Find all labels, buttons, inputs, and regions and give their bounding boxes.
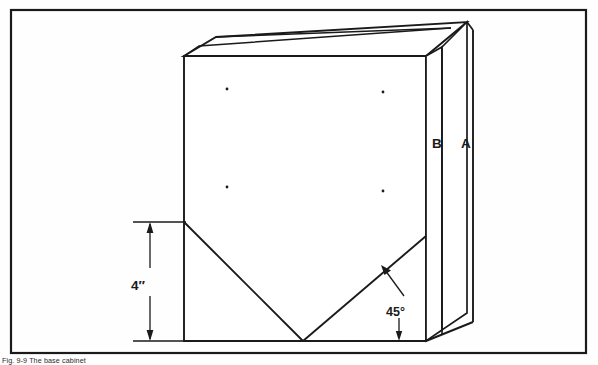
height-dimension-label: 4″: [131, 278, 146, 293]
angle-label: 45°: [386, 305, 405, 319]
panel-b-label: B: [432, 136, 442, 151]
panel-a-face: [442, 22, 467, 330]
fastener-dot: [382, 91, 385, 94]
panel-b-face: [426, 47, 442, 341]
top-surface: [184, 22, 467, 56]
figure-caption: Fig. 9-9 The base cabinet: [2, 356, 86, 365]
cabinet-isometric-drawing: B A 45° 4″: [0, 0, 598, 365]
front-face-outline: [184, 56, 426, 341]
dimension-arrow-down: [147, 330, 154, 341]
dimension-arrow-up: [147, 222, 154, 233]
fastener-dot: [226, 88, 229, 91]
panel-a-label: A: [461, 136, 471, 151]
panel-a-top-edge: [467, 22, 473, 30]
fastener-dot: [382, 190, 385, 193]
figure-canvas: B A 45° 4″ Fig. 9-9 The base cabinet: [0, 0, 598, 365]
fastener-dot: [226, 186, 229, 189]
